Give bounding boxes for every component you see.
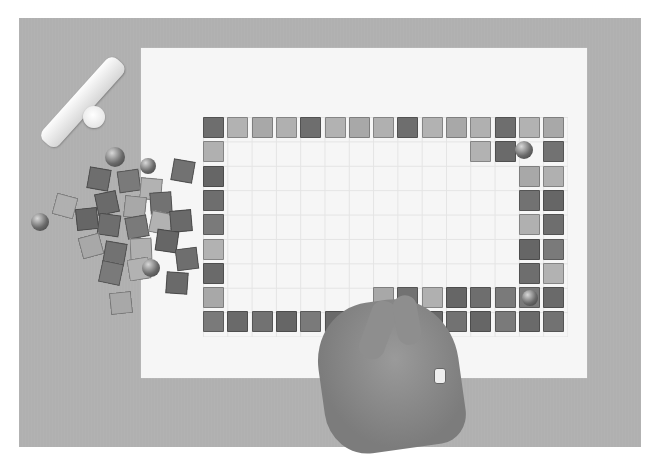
mosaic-tile bbox=[300, 311, 321, 332]
mosaic-tile bbox=[203, 141, 224, 162]
loose-tile bbox=[124, 214, 149, 239]
mosaic-tile bbox=[543, 214, 564, 235]
glass-gem bbox=[31, 213, 49, 231]
mosaic-tile bbox=[252, 117, 273, 138]
mosaic-tile bbox=[543, 117, 564, 138]
mosaic-tile bbox=[227, 117, 248, 138]
mosaic-tile bbox=[519, 263, 540, 284]
loose-tile bbox=[97, 213, 122, 238]
glass-gem bbox=[142, 259, 160, 277]
mosaic-tile bbox=[543, 287, 564, 308]
mosaic-tile bbox=[495, 141, 516, 162]
mosaic-tile bbox=[543, 141, 564, 162]
mosaic-tile bbox=[519, 117, 540, 138]
mosaic-tile bbox=[495, 117, 516, 138]
mosaic-tile bbox=[543, 190, 564, 211]
mosaic-tile bbox=[446, 311, 467, 332]
mosaic-tile bbox=[300, 117, 321, 138]
loose-tile bbox=[94, 190, 120, 216]
mosaic-tile bbox=[203, 190, 224, 211]
mosaic-tile bbox=[543, 263, 564, 284]
glue-cap bbox=[83, 106, 105, 128]
mosaic-tile bbox=[422, 287, 443, 308]
mosaic-tile bbox=[276, 311, 297, 332]
mosaic-tile bbox=[203, 263, 224, 284]
mosaic-tile bbox=[470, 287, 491, 308]
mosaic-tile bbox=[373, 117, 394, 138]
glass-gem bbox=[515, 141, 533, 159]
loose-tile bbox=[98, 260, 124, 286]
mosaic-tile bbox=[446, 117, 467, 138]
mosaic-tile bbox=[252, 311, 273, 332]
mosaic-tile bbox=[203, 311, 224, 332]
mosaic-tile bbox=[203, 287, 224, 308]
mosaic-tile bbox=[543, 239, 564, 260]
mosaic-tile bbox=[470, 311, 491, 332]
loose-tile bbox=[75, 207, 99, 231]
loose-tile bbox=[175, 247, 200, 272]
loose-tile bbox=[86, 166, 111, 191]
mosaic-tile bbox=[397, 117, 418, 138]
mosaic-tile bbox=[446, 287, 467, 308]
mosaic-tile bbox=[470, 117, 491, 138]
mosaic-tile bbox=[203, 166, 224, 187]
mosaic-tile bbox=[543, 166, 564, 187]
mosaic-tile bbox=[470, 141, 491, 162]
mosaic-tile bbox=[349, 117, 370, 138]
glass-gem bbox=[140, 158, 156, 174]
loose-tile bbox=[169, 209, 193, 233]
mosaic-tile bbox=[519, 166, 540, 187]
loose-tile bbox=[109, 291, 133, 315]
glass-gem bbox=[522, 290, 538, 306]
mosaic-tile bbox=[519, 239, 540, 260]
mosaic-tile bbox=[495, 311, 516, 332]
ring bbox=[434, 368, 446, 384]
loose-tile bbox=[117, 169, 142, 194]
mosaic-tile bbox=[519, 190, 540, 211]
mosaic-tile bbox=[422, 117, 443, 138]
mosaic-tile bbox=[203, 117, 224, 138]
mosaic-tile bbox=[495, 287, 516, 308]
loose-tile bbox=[165, 271, 188, 294]
mosaic-tile bbox=[543, 311, 564, 332]
loose-tile bbox=[170, 158, 195, 183]
mosaic-tile bbox=[203, 239, 224, 260]
mosaic-tile bbox=[519, 214, 540, 235]
mosaic-tile bbox=[519, 311, 540, 332]
glass-gem bbox=[105, 147, 125, 167]
mosaic-tile bbox=[325, 117, 346, 138]
mosaic-tile bbox=[227, 311, 248, 332]
mosaic-tile bbox=[276, 117, 297, 138]
mosaic-tile bbox=[203, 214, 224, 235]
